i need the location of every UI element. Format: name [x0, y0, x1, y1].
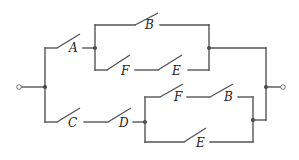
label-d: D: [118, 116, 129, 130]
label-f-bottom: F: [173, 90, 183, 104]
input-node: [43, 85, 47, 89]
input-terminal: [17, 85, 22, 90]
label-e-top: E: [171, 64, 181, 78]
circuit-diagram: A B F E C D: [0, 0, 299, 160]
label-f-top: F: [120, 64, 130, 78]
label-e-bottom: E: [195, 136, 205, 150]
switch-a-group: A: [45, 34, 97, 55]
label-b-top: B: [144, 18, 154, 32]
upper-parallel-block: B F E: [95, 13, 266, 78]
label-b-bottom: B: [223, 90, 233, 104]
input-section: [17, 48, 47, 122]
output-terminal: [281, 85, 286, 90]
lower-series-group: C D: [45, 108, 147, 130]
label-a: A: [68, 41, 78, 55]
label-c: C: [68, 116, 77, 130]
lower-parallel-block: F B E: [145, 84, 266, 150]
output-section: [264, 48, 285, 120]
